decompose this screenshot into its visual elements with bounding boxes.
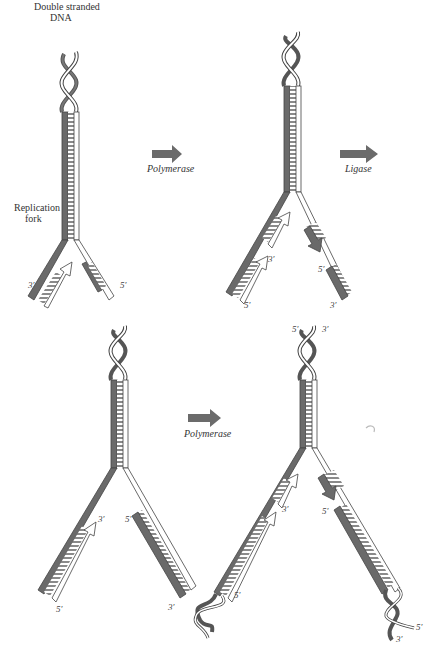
end-label: 3′ — [321, 324, 330, 334]
end-label: 3′ — [267, 254, 276, 264]
dna-label-line2: DNA — [50, 12, 72, 23]
step-label: Polymerase — [146, 163, 195, 174]
panel-4: 5′ 3′ 3′ 5′ 5′ 5′ 3′ — [195, 324, 423, 644]
dna-label-line1: Double stranded — [34, 1, 100, 12]
panel-3: 3′ 5′ 5′ 3′ — [38, 326, 196, 614]
end-label: 5′ — [292, 324, 300, 334]
step-label: Polymerase — [183, 428, 232, 439]
new-fragment-arrow-icon — [220, 512, 276, 602]
end-label: 5′ — [244, 300, 252, 310]
step-arrow-polymerase-1: Polymerase — [146, 145, 195, 174]
end-label: 5′ — [416, 622, 424, 632]
lagging-fragment — [326, 264, 352, 300]
end-label: 5′ — [120, 280, 128, 290]
end-label: 5′ — [318, 264, 326, 274]
end-label: 5′ — [125, 514, 133, 524]
step-arrow-polymerase-2: Polymerase — [183, 409, 232, 439]
dna-replication-diagram: Double stranded DNA Replication fork 3′ … — [0, 0, 438, 650]
lagging-strand — [334, 504, 394, 594]
right-arrow-icon — [340, 145, 378, 163]
end-label: 5′ — [322, 506, 330, 516]
end-label: 3′ — [27, 280, 36, 290]
end-label: 3′ — [97, 514, 106, 524]
end-label: 3′ — [281, 504, 290, 514]
end-label: 3′ — [329, 300, 338, 310]
end-label: 5′ — [56, 604, 64, 614]
end-label: 3′ — [395, 634, 404, 644]
unwinding-helix-icon — [195, 594, 224, 638]
leading-strand-arrow-icon — [44, 522, 96, 602]
right-arrow-icon — [188, 409, 221, 427]
right-arrow-icon — [152, 145, 182, 163]
panel-1: Double stranded DNA Replication fork 3′ … — [14, 1, 128, 308]
end-label: 3′ — [167, 602, 176, 612]
double-helix-icon — [284, 32, 299, 86]
end-label: 5′ — [234, 590, 242, 600]
unwinding-helix-icon — [385, 588, 414, 640]
panel-2: 3′ 5′ 5′ 3′ — [226, 32, 352, 310]
double-helix-icon — [111, 326, 126, 380]
step-label: Ligase — [344, 163, 372, 174]
double-helix-icon — [300, 326, 315, 380]
lagging-strand — [132, 510, 190, 598]
stray-mark — [366, 426, 374, 432]
double-helix-icon — [62, 52, 77, 112]
duplex-stem — [62, 112, 79, 240]
leading-strand-arrow-icon — [38, 262, 72, 308]
fork-label-line2: fork — [25, 213, 42, 224]
fork-label-line1: Replication — [14, 202, 60, 213]
step-arrow-ligase: Ligase — [340, 145, 378, 174]
